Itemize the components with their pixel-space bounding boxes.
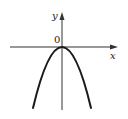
origin-label: 0 [54,34,60,45]
y-axis [60,12,65,110]
parabola-graph: y 0 x [0,0,128,119]
y-axis-arrow-icon [60,12,65,20]
x-axis-label: x [110,50,116,61]
y-axis-label: y [51,10,58,21]
x-axis-arrow-icon [110,45,118,50]
